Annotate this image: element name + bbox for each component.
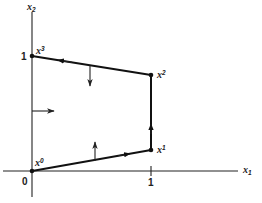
edge-x0-x1	[32, 150, 151, 171]
x1-axis-label: x1	[242, 164, 252, 176]
label-x1: x1	[156, 144, 166, 155]
path-edges	[32, 56, 151, 171]
point-x3	[30, 54, 35, 59]
x2-tick-label: 1	[21, 51, 27, 62]
polygon-path-diagram: x2 x1 0 1 1 x0 x1 x2 x3	[0, 0, 262, 203]
point-x1	[149, 148, 154, 153]
origin-label: 0	[22, 176, 28, 187]
point-x0	[30, 169, 35, 174]
x2-axis-label: x2	[26, 1, 36, 13]
point-x2	[149, 73, 154, 78]
x1-tick-label: 1	[148, 177, 154, 188]
label-x2: x2	[156, 69, 166, 80]
edge-x2-x3	[32, 56, 151, 75]
label-x0: x0	[34, 157, 44, 168]
label-x3: x3	[35, 45, 45, 56]
normal-arrows	[32, 66, 95, 162]
direction-arrows	[58, 60, 151, 156]
